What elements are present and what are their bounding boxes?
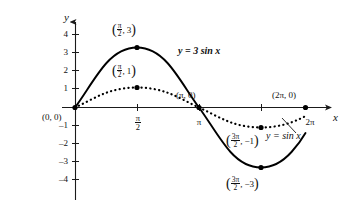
- fraction-3pi-over-2: 3π2: [231, 176, 241, 193]
- point-3pi-half-neg3: [258, 165, 263, 170]
- point-pi-half-3: [134, 45, 139, 50]
- x-tick-label-pi-over-2: π 2: [128, 114, 148, 133]
- curve-label-sinx: y = sin x: [266, 131, 301, 141]
- y-tick-label-4: 4: [52, 30, 68, 39]
- x-tick-label-2pi: 2π: [300, 117, 320, 127]
- fraction-pi-over-2: π 2: [135, 114, 141, 133]
- graph-figure: y x 4 3 2 1 –1 –2 –3 –4 π 2 π 2π (0, 0) …: [0, 0, 349, 208]
- point-3pi-half-neg1: [258, 125, 263, 130]
- point-pi-0: [196, 105, 201, 110]
- annotation-pi-0: (π, 0): [176, 90, 196, 100]
- x-tick-label-pi: π: [192, 117, 206, 127]
- x-axis-label: x: [333, 112, 338, 123]
- annotation-pi-half-1: (π2,1): [112, 63, 136, 80]
- y-tick-label-neg4: –4: [50, 175, 68, 184]
- point-2pi-0: [303, 105, 308, 110]
- y-value: −3: [242, 179, 254, 189]
- point-origin: [72, 105, 77, 110]
- paren-close: ): [254, 177, 259, 191]
- paren-close: ): [131, 64, 136, 78]
- y-axis-label: y: [64, 12, 69, 23]
- fraction-denominator: 2: [231, 141, 241, 149]
- fraction-denominator: 2: [117, 71, 123, 79]
- y-tick-label-2: 2: [52, 66, 68, 75]
- fraction-pi-over-2: π2: [117, 63, 123, 80]
- annotation-origin: (0, 0): [42, 112, 62, 122]
- fraction-3pi-over-2: 3π2: [231, 133, 241, 150]
- paren-close: ): [254, 134, 259, 148]
- annotation-pi-half-3: (π2,3): [112, 22, 136, 39]
- fraction-denominator: 2: [135, 123, 141, 132]
- y-tick-label-neg1: –1: [50, 121, 68, 130]
- paren-close: ): [131, 23, 136, 37]
- y-tick-label-neg3: –3: [50, 157, 68, 166]
- y-tick-label-1: 1: [52, 84, 68, 93]
- annotation-2pi-0: (2π, 0): [272, 90, 296, 100]
- curve-label-3sinx: y = 3 sin x: [178, 46, 220, 56]
- fraction-denominator: 2: [231, 184, 241, 192]
- fraction-pi-over-2: π2: [117, 22, 123, 39]
- annotation-3pi-half-neg3: (3π2,−3): [226, 176, 259, 193]
- annotation-3pi-half-neg1: (3π2,−1): [226, 133, 259, 150]
- fraction-denominator: 2: [117, 30, 123, 38]
- y-tick-label-3: 3: [52, 48, 68, 57]
- y-value: −1: [242, 136, 254, 146]
- y-tick-label-neg2: –2: [50, 139, 68, 148]
- point-pi-half-1: [134, 85, 139, 90]
